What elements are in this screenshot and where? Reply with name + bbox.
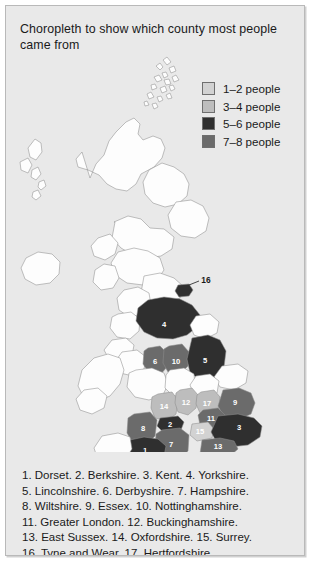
county-region <box>143 163 189 207</box>
map-label-12: 12 <box>182 398 190 407</box>
map-label-3: 3 <box>237 423 241 432</box>
leader-line-tyne-and-wear <box>189 281 199 285</box>
northern-ireland <box>21 252 60 285</box>
scotland-islands <box>144 57 179 109</box>
county-key-list: 1. Dorset. 2. Berkshire. 3. Kent. 4. Yor… <box>22 468 294 556</box>
county-region <box>93 264 119 290</box>
key-line: 11. Greater London. 12. Buckinghamshire. <box>22 515 294 531</box>
map-label-13: 13 <box>214 442 222 451</box>
map-label-9: 9 <box>233 398 237 407</box>
map-label-17: 17 <box>203 399 211 408</box>
key-line: 13. East Sussex. 14. Oxfordshire. 15. Su… <box>22 530 294 546</box>
county-region-tyne-and-wear <box>175 284 193 297</box>
county-region-yorkshire <box>136 297 200 339</box>
county-region <box>110 312 140 339</box>
map-label-10: 10 <box>172 357 180 366</box>
key-line: 1. Dorset. 2. Berkshire. 3. Kent. 4. Yor… <box>22 468 294 484</box>
choropleth-figure: Choropleth to show which county most peo… <box>5 5 305 556</box>
figure-title: Choropleth to show which county most peo… <box>20 22 292 53</box>
map-label-11: 11 <box>207 414 216 423</box>
map-label-2: 2 <box>168 420 172 429</box>
county-region <box>168 200 209 238</box>
map-label-6: 6 <box>153 357 157 366</box>
outer-hebrides <box>20 139 46 200</box>
uk-choropleth-map: 4 16 6 10 5 14 12 17 9 2 11 8 7 15 3 13 … <box>6 52 305 452</box>
key-line: 16. Tyne and Wear. 17. Hertfordshire. <box>22 546 294 556</box>
key-line: 8. Wiltshire. 9. Essex. 10. Nottinghamsh… <box>22 499 294 515</box>
map-label-14: 14 <box>160 402 169 411</box>
map-label-8: 8 <box>141 424 145 433</box>
map-label-7: 7 <box>169 440 173 449</box>
key-line: 5. Lincolnshire. 6. Derbyshire. 7. Hamps… <box>22 484 294 500</box>
county-region <box>94 433 132 452</box>
map-label-15: 15 <box>196 427 205 436</box>
map-label-16: 16 <box>201 275 211 285</box>
